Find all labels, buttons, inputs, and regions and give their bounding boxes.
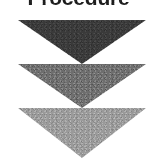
down-arrow-step-1: [18, 20, 146, 64]
triangle-down-icon: [18, 20, 146, 64]
triangle-down-icon: [18, 64, 146, 108]
procedure-figure: Procedure: [0, 0, 157, 165]
arrow-stack: [0, 0, 157, 165]
down-arrow-step-3: [18, 108, 146, 158]
down-arrow-step-2: [18, 64, 146, 108]
triangle-down-icon: [18, 108, 146, 158]
